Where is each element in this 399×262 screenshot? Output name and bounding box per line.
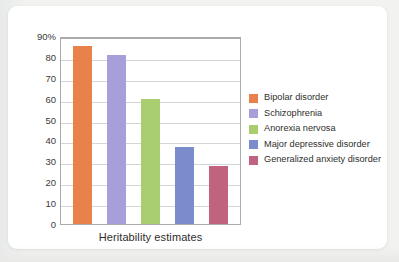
y-axis-tick-label: 90% [10, 32, 56, 42]
legend-item-label: Schizophrenia [264, 109, 322, 118]
legend-item: Schizophrenia [249, 108, 397, 120]
y-axis: 0102030405060708090% [8, 37, 56, 225]
legend-swatch-icon [249, 125, 258, 134]
legend-item: Bipolar disorder [249, 92, 397, 104]
legend-item: Generalized anxiety disorder [249, 154, 397, 166]
legend-swatch-icon [249, 156, 258, 165]
legend-item-label: Bipolar disorder [264, 93, 328, 102]
y-axis-tick-label: 80 [10, 53, 56, 63]
legend-item-label: Anorexia nervosa [264, 124, 336, 133]
legend-swatch-icon [249, 94, 258, 103]
y-axis-tick-label: 0 [10, 220, 56, 230]
legend-swatch-icon [249, 140, 258, 149]
y-axis-tick-label: 10 [10, 199, 56, 209]
plot-area [60, 37, 241, 225]
bar [175, 147, 194, 224]
legend-item: Anorexia nervosa [249, 123, 397, 135]
y-axis-tick-label: 20 [10, 178, 56, 188]
legend-item-label: Generalized anxiety disorder [264, 155, 381, 164]
bar [209, 166, 228, 224]
legend-swatch-icon [249, 109, 258, 118]
bar [73, 46, 92, 224]
chart-legend: Bipolar disorderSchizophreniaAnorexia ne… [249, 92, 397, 170]
y-axis-tick-label: 50 [10, 116, 56, 126]
legend-item-label: Major depressive disorder [264, 140, 370, 149]
y-axis-tick-label: 70 [10, 74, 56, 84]
y-axis-tick-label: 40 [10, 136, 56, 146]
y-axis-tick-label: 30 [10, 157, 56, 167]
bar [141, 99, 160, 224]
chart-card: 0102030405060708090% Heritability estima… [8, 6, 387, 249]
bar [107, 55, 126, 224]
legend-item: Major depressive disorder [249, 139, 397, 151]
bars-group [61, 39, 240, 224]
y-axis-tick-label: 60 [10, 95, 56, 105]
x-axis-label: Heritability estimates [60, 231, 241, 243]
